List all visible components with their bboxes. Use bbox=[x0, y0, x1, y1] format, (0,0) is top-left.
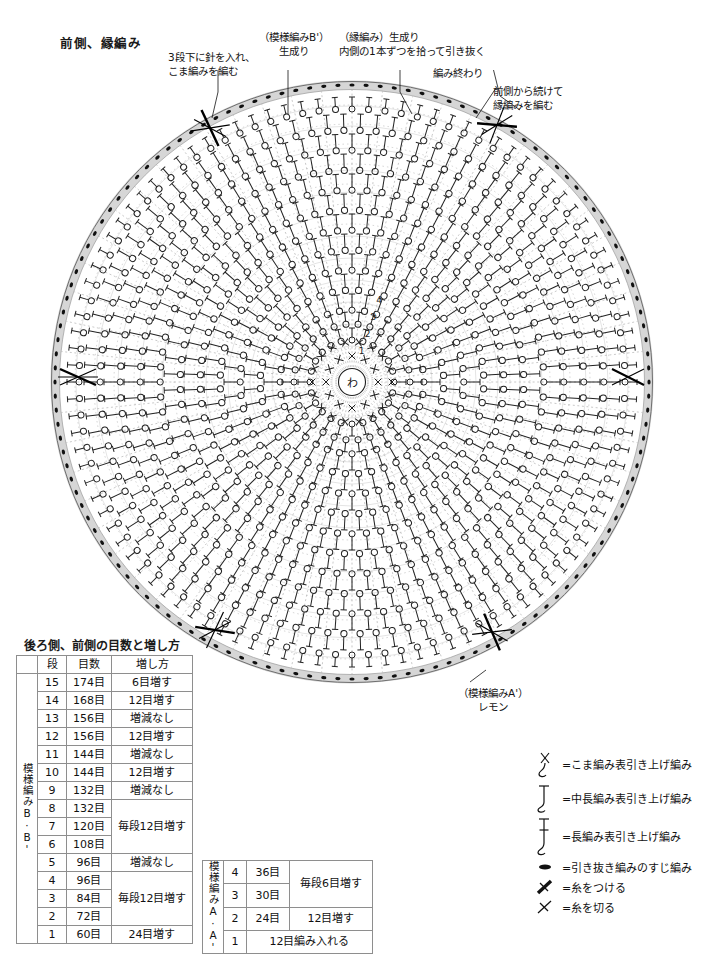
cell-stitch-count: 96目 bbox=[67, 854, 112, 872]
stitch-symbol bbox=[349, 353, 356, 360]
stitch-symbol bbox=[188, 414, 208, 425]
stitch-symbol bbox=[71, 428, 87, 437]
stitch-symbol bbox=[311, 238, 322, 258]
stitch-symbol bbox=[590, 505, 606, 517]
stitch-symbol bbox=[223, 270, 242, 287]
stitch-symbol bbox=[620, 412, 636, 420]
center-ring-label: わ bbox=[347, 377, 358, 390]
stitch-symbol bbox=[500, 292, 520, 307]
annotation-continue-from-front: 前側から続けて縁編みを編む bbox=[493, 84, 563, 112]
stitch-symbol bbox=[287, 351, 303, 363]
stitch-symbol bbox=[430, 505, 446, 525]
stitch-symbol bbox=[152, 268, 172, 283]
stitch-symbol bbox=[471, 195, 487, 214]
stitch-symbol bbox=[204, 371, 224, 378]
stitch-symbol bbox=[260, 573, 273, 593]
stitch-symbol bbox=[71, 328, 87, 337]
stitch-symbol bbox=[67, 379, 82, 385]
stitch-symbol bbox=[246, 497, 263, 516]
stitch-symbol bbox=[356, 154, 363, 174]
stitch-symbol bbox=[505, 228, 524, 246]
stitch-symbol bbox=[505, 574, 522, 593]
stitch-symbol bbox=[431, 171, 444, 191]
stitch-symbol bbox=[395, 605, 405, 625]
stitch-symbol bbox=[129, 424, 149, 434]
stitch-symbol bbox=[124, 379, 143, 385]
stitch-symbol bbox=[395, 243, 408, 263]
stitch-symbol bbox=[389, 117, 398, 137]
stitch-symbol bbox=[441, 275, 459, 293]
annotation-insert-3-rows-below: 3段下に針を入れ、こま編みを編む bbox=[168, 50, 255, 78]
stitch-symbol bbox=[454, 584, 469, 604]
stitch-symbol bbox=[297, 458, 312, 478]
stitch-symbol bbox=[227, 212, 244, 231]
stitch-symbol bbox=[452, 231, 469, 250]
stitch-symbol bbox=[88, 426, 108, 436]
stitch-symbol bbox=[210, 151, 225, 171]
anno-front-cont-line-1: 縁編みを編む bbox=[493, 98, 563, 112]
stitch-symbol bbox=[332, 651, 339, 666]
table-row: 模様編みB·B'15174目6目増す bbox=[17, 674, 193, 692]
stitch-symbol bbox=[235, 160, 250, 180]
stitch-symbol bbox=[202, 612, 215, 628]
stitch-symbol bbox=[505, 519, 524, 537]
stitch-symbol bbox=[493, 470, 513, 486]
stitch-symbol bbox=[419, 488, 435, 508]
koma-hikiage-icon bbox=[528, 749, 562, 779]
cell-stitch-count: 174目 bbox=[67, 674, 112, 692]
stitch-symbol bbox=[617, 428, 633, 437]
stitch-symbol bbox=[452, 514, 469, 533]
stitch-symbol bbox=[527, 524, 546, 541]
stitch-symbol bbox=[355, 436, 363, 452]
stitch-symbol bbox=[285, 183, 297, 203]
stitch-symbol bbox=[505, 171, 522, 190]
stitch-symbol bbox=[441, 497, 458, 516]
stitch-symbol bbox=[414, 537, 427, 557]
stitch-symbol bbox=[389, 627, 398, 647]
stitch-symbol bbox=[138, 250, 158, 265]
stitch-symbol bbox=[255, 549, 269, 569]
cell-row-number: 14 bbox=[38, 692, 67, 710]
stitch-symbol bbox=[395, 139, 405, 159]
stitch-symbol bbox=[368, 276, 378, 296]
stitch-symbol bbox=[315, 136, 324, 156]
stitch-symbol bbox=[173, 271, 193, 287]
stitch-symbol bbox=[395, 412, 411, 426]
stitch-symbol bbox=[144, 282, 164, 296]
stitch-symbol bbox=[333, 490, 342, 510]
anno-end-line-0: 編み終わり bbox=[433, 66, 483, 80]
stitch-symbol bbox=[411, 142, 422, 162]
table-b-header-row-no: 段 bbox=[38, 656, 67, 674]
stitch-symbol bbox=[160, 494, 180, 510]
stitch-symbol bbox=[349, 652, 355, 667]
table-b-header-count: 目数 bbox=[67, 656, 112, 674]
stitch-symbol bbox=[213, 466, 232, 482]
stitch-symbol bbox=[88, 328, 108, 338]
stitch-symbol bbox=[596, 426, 616, 436]
stitch-symbol bbox=[377, 407, 392, 422]
stitch-symbol bbox=[256, 265, 273, 284]
stitch-symbol bbox=[84, 395, 104, 403]
cell-stitch-count: 30目 bbox=[247, 884, 290, 907]
stitch-symbol bbox=[206, 178, 222, 197]
stitch-symbol bbox=[250, 410, 270, 423]
stitch-symbol bbox=[388, 483, 401, 503]
stitch-symbol bbox=[146, 541, 165, 558]
stitch-symbol bbox=[428, 327, 448, 342]
stitch-symbol bbox=[440, 371, 460, 379]
legend-item-ito-tsukeru: =糸をつける bbox=[528, 878, 714, 896]
legend-label-hikinuki-suji: =引き抜き編みのすじ編み bbox=[562, 859, 692, 875]
stitch-symbol bbox=[389, 365, 405, 375]
stitch-symbol bbox=[86, 411, 106, 420]
stitch-symbol bbox=[391, 379, 406, 385]
stitch-symbol bbox=[349, 254, 355, 273]
stitch-symbol bbox=[493, 244, 512, 261]
stitch-symbol bbox=[388, 261, 401, 281]
stitch-symbol bbox=[435, 549, 449, 569]
stitch-symbol bbox=[507, 307, 527, 320]
cell-stitch-count: 132目 bbox=[67, 782, 112, 800]
stitch-symbol bbox=[563, 546, 579, 560]
stitch-symbol bbox=[275, 578, 287, 598]
stitch-symbol bbox=[335, 419, 345, 435]
stitch-symbol bbox=[581, 472, 601, 485]
